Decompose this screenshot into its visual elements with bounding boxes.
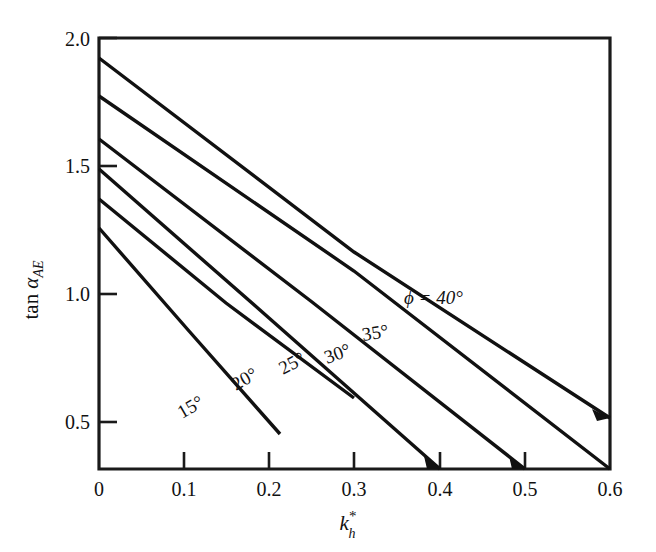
curve-label-phi-40: ϕ = 40° xyxy=(404,287,463,308)
curve-phi-35 xyxy=(99,96,610,469)
x-tick-label-0-2: 0.2 xyxy=(257,478,282,500)
y-tick-label-1-5: 1.5 xyxy=(65,155,90,177)
svg-text:tan αAE: tan αAE xyxy=(19,260,46,319)
x-axis-ticks xyxy=(184,452,525,469)
line-chart: 0.5 1.0 1.5 2.0 0 0.1 0.2 0.3 0.4 0.5 0.… xyxy=(0,0,656,552)
x-tick-label-0-4: 0.4 xyxy=(428,478,453,500)
curve-label-phi-30: 30° xyxy=(321,339,353,368)
x-axis-title-sub: h xyxy=(348,526,355,541)
y-tick-label-1-0: 1.0 xyxy=(65,283,90,305)
x-axis-title: k*h xyxy=(340,508,357,541)
arrowhead-phi-30 xyxy=(509,456,525,469)
svg-text:k*h: k*h xyxy=(340,508,357,541)
x-tick-label-0: 0 xyxy=(94,478,104,500)
y-tick-label-0-5: 0.5 xyxy=(65,411,90,433)
curve-phi-20 xyxy=(99,199,354,398)
x-tick-label-0-1: 0.1 xyxy=(172,478,197,500)
figure-container: 0.5 1.0 1.5 2.0 0 0.1 0.2 0.3 0.4 0.5 0.… xyxy=(0,0,656,552)
x-tick-labels: 0 0.1 0.2 0.3 0.4 0.5 0.6 xyxy=(94,478,623,500)
y-axis-title-tan: tan xyxy=(19,289,43,320)
x-tick-label-0-6: 0.6 xyxy=(598,478,623,500)
curve-label-phi-25: 25° xyxy=(275,347,308,378)
x-tick-label-0-3: 0.3 xyxy=(342,478,367,500)
y-axis-title: tan αAE xyxy=(19,260,46,319)
y-tick-labels: 0.5 1.0 1.5 2.0 xyxy=(65,28,90,433)
y-tick-label-2-0: 2.0 xyxy=(65,28,90,50)
curve-label-phi-35: 35° xyxy=(360,320,390,345)
x-tick-label-0-5: 0.5 xyxy=(513,478,538,500)
curve-arrowheads xyxy=(424,409,610,469)
x-axis-title-sup: * xyxy=(349,508,357,524)
y-axis-title-sub: AE xyxy=(31,260,46,279)
curve-label-phi-15: 15° xyxy=(174,391,208,422)
curve-label-phi-20: 20° xyxy=(228,363,262,394)
curve-label-phi-40-text: ϕ = 40° xyxy=(404,287,463,308)
